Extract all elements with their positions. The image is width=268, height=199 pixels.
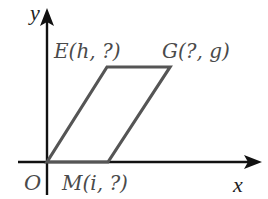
origin-label: O	[24, 171, 41, 195]
coordinate-diagram: y x O E(h, ?) G(?, g) M(i, ?)	[0, 0, 268, 199]
y-axis-label: y	[28, 0, 40, 25]
point-G-label: G(?, g)	[162, 39, 230, 63]
parallelogram-OEGM	[47, 67, 170, 162]
point-E-label: E(h, ?)	[53, 39, 121, 63]
point-M-label: M(i, ?)	[61, 171, 128, 195]
x-axis-label: x	[232, 172, 243, 197]
